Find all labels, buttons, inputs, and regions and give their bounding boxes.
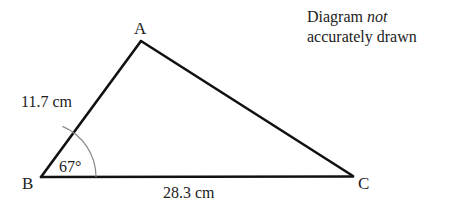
triangle-diagram: A B C 11.7 cm 28.3 cm 67° Diagram not ac… — [0, 0, 455, 213]
vertex-label-a: A — [134, 19, 147, 38]
vertex-label-c: C — [358, 174, 369, 193]
note-prefix: Diagram — [307, 8, 367, 26]
note-italic-not: not — [367, 8, 388, 25]
side-ac — [141, 41, 353, 176]
not-to-scale-note-line1: Diagram not — [307, 8, 388, 26]
not-to-scale-note-line2: accurately drawn — [307, 28, 417, 46]
angle-b-label: 67° — [59, 158, 81, 175]
side-ab-length-label: 11.7 cm — [21, 93, 73, 110]
side-bc — [41, 177, 353, 178]
vertex-label-b: B — [22, 174, 33, 193]
side-bc-length-label: 28.3 cm — [163, 184, 215, 201]
